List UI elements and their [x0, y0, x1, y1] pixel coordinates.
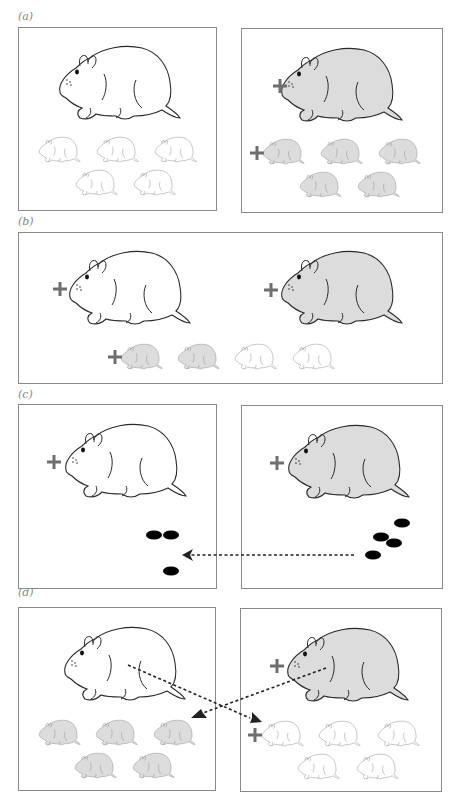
plus-marker-icon: [248, 728, 262, 742]
pellets-left: [146, 531, 179, 576]
figure-drawing: [0, 0, 455, 798]
plus-marker-icon: [264, 283, 278, 297]
plus-marker-icon: [108, 350, 122, 364]
adult-hamster-shaded: [289, 425, 409, 498]
adult-hamster-unshaded: [60, 46, 180, 119]
adult-hamster-unshaded: [65, 627, 185, 700]
plus-marker-icon: [53, 282, 67, 296]
pups-shaded: [263, 139, 420, 197]
pups-unshaded: [262, 721, 419, 779]
plus-marker-icon: [270, 456, 284, 470]
pellets-right: [365, 519, 410, 560]
plus-marker-icon: [47, 455, 61, 469]
adult-hamster-shaded: [282, 48, 402, 121]
transfer-arrow-dashed: [182, 549, 354, 561]
adult-hamster-unshaded: [70, 251, 190, 324]
pups-unshaded: [39, 137, 196, 195]
pups-shaded: [39, 720, 195, 778]
adult-hamster-shaded: [288, 628, 408, 701]
plus-marker-icon: [270, 659, 284, 673]
plus-marker-icon: [250, 146, 264, 160]
pups-mixed: [121, 344, 334, 369]
adult-hamster-unshaded: [66, 424, 186, 497]
adult-hamster-shaded: [282, 251, 402, 324]
